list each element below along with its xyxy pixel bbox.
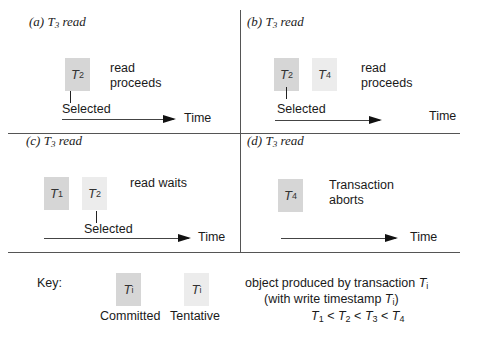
panel-d-title: (d) T3 read [247, 133, 304, 149]
outcome-label: read waits [130, 176, 187, 191]
panel-b-title: (b) T3 read [247, 14, 304, 30]
outcome-label: readproceeds [361, 61, 412, 91]
time-label: Time [198, 230, 225, 245]
time-label: Time [184, 111, 211, 126]
key-tentative-label: Tentative [170, 309, 220, 324]
selected-marker [286, 87, 287, 99]
key-committed-label: Committed [100, 309, 160, 324]
time-arrow [44, 238, 189, 239]
time-label: Time [410, 230, 437, 245]
key-timestamp-ordering: T1 < T2 < T3 < T4 [311, 309, 404, 327]
panel-a-title: (a) T3 read [29, 14, 86, 30]
time-label: Time [429, 109, 456, 124]
time-arrow [62, 119, 174, 120]
tentative-version-box: T2 [82, 177, 107, 210]
committed-version-box: T1 [44, 177, 69, 210]
bottom-divider [8, 252, 460, 253]
vertical-divider [240, 10, 241, 252]
time-arrow [281, 238, 396, 239]
committed-version-box: T2 [65, 58, 90, 91]
selected-label: Selected [84, 222, 133, 237]
outcome-label: readproceeds [110, 61, 161, 91]
outcome-label: Transactionaborts [329, 178, 394, 208]
time-arrow [275, 120, 380, 121]
key-committed-box: Ti [116, 273, 141, 306]
key-title: Key: [37, 276, 62, 291]
selected-label: Selected [62, 102, 111, 117]
key-description-line2: (with write timestamp Ti) [264, 292, 399, 310]
key-tentative-box: Ti [184, 273, 209, 306]
panel-c-title: (c) T3 read [26, 133, 82, 149]
selected-label: Selected [277, 102, 326, 117]
committed-version-box: T4 [278, 179, 303, 212]
tentative-version-box: T4 [312, 58, 337, 91]
